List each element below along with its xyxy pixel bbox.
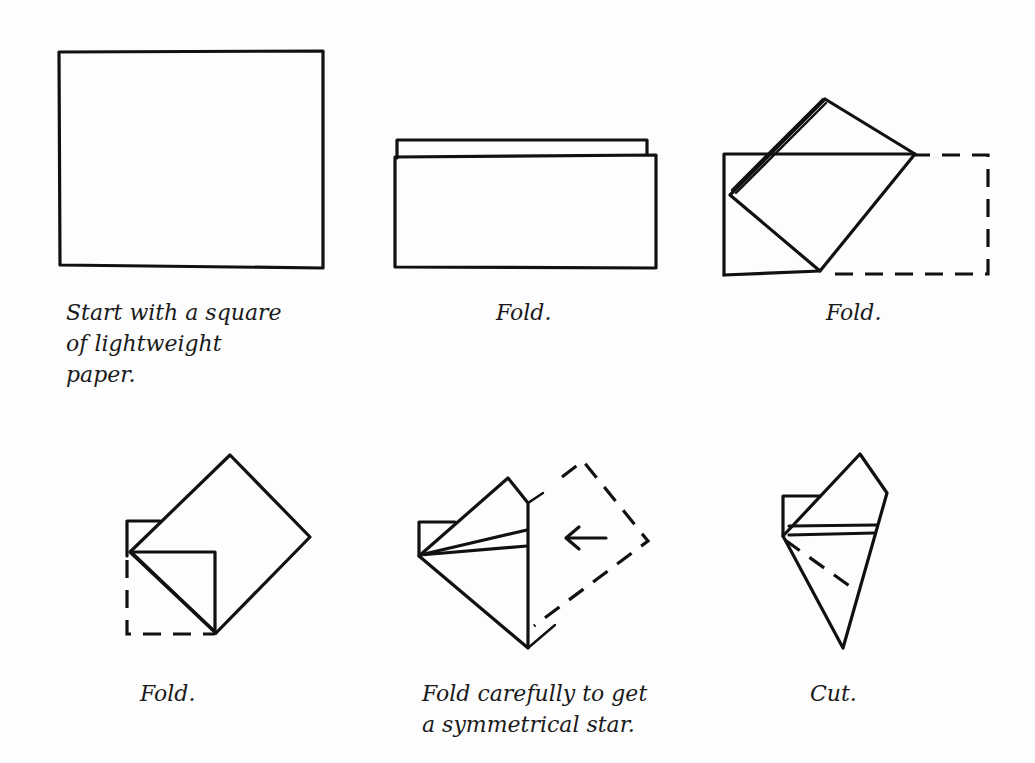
step-3-folded-figure (724, 99, 988, 275)
step-4-caption: Fold. (140, 678, 195, 709)
step-2-caption: Fold. (496, 297, 551, 328)
arrow-left-icon (566, 527, 606, 549)
step-5-caption: Fold carefully to get a symmetrical star… (422, 678, 647, 740)
step-4-folded-figure (127, 455, 310, 634)
step-1-caption: Start with a square of lightweight paper… (66, 297, 282, 390)
step-6-caption: Cut. (810, 678, 857, 709)
step-6-cut-figure (783, 454, 887, 648)
origami-star-instructions: Start with a square of lightweight paper… (0, 0, 1035, 763)
step-3-caption: Fold. (826, 297, 881, 328)
step-5-folded-figure (419, 461, 648, 648)
step-2-folded-figure (395, 140, 656, 268)
step-1-square-figure (59, 51, 323, 268)
